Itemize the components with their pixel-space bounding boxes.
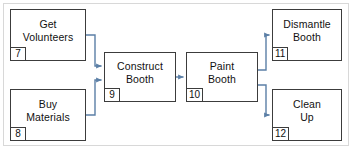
- task-label-construct-booth: Construct Booth: [114, 60, 166, 94]
- task-number-clean-up: 12: [273, 127, 289, 140]
- task-label-get-volunteers: Get Volunteers: [20, 18, 77, 52]
- edge-get-volunteers-to-construct-booth: [86, 35, 102, 66]
- task-number-buy-materials: 8: [11, 127, 26, 140]
- task-box-paint-booth[interactable]: Paint Booth 10: [186, 52, 258, 102]
- task-label-paint-booth: Paint Booth: [205, 60, 239, 94]
- edge-paint-booth-to-dismantle-booth: [258, 35, 270, 70]
- task-number-dismantle-booth: 11: [273, 47, 288, 60]
- precedence-diagram: Get Volunteers 7 Buy Materials 8 Constru…: [0, 0, 353, 150]
- task-box-buy-materials[interactable]: Buy Materials 8: [10, 89, 86, 141]
- edge-buy-materials-to-construct-booth: [86, 80, 102, 115]
- task-box-clean-up[interactable]: Clean Up 12: [272, 89, 342, 141]
- task-number-paint-booth: 10: [187, 88, 203, 101]
- task-box-get-volunteers[interactable]: Get Volunteers 7: [10, 9, 86, 61]
- edge-paint-booth-to-clean-up: [258, 85, 270, 115]
- task-box-construct-booth[interactable]: Construct Booth 9: [104, 52, 176, 102]
- task-box-dismantle-booth[interactable]: Dismantle Booth 11: [272, 9, 342, 61]
- task-number-get-volunteers: 7: [11, 47, 26, 60]
- task-label-clean-up: Clean Up: [290, 98, 324, 132]
- task-label-buy-materials: Buy Materials: [23, 98, 73, 132]
- task-number-construct-booth: 9: [105, 88, 120, 101]
